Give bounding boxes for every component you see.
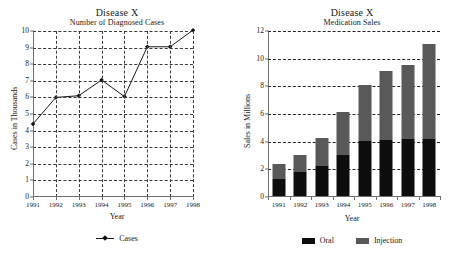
oral-swatch-icon xyxy=(302,238,315,244)
bar-segment-oral xyxy=(401,139,414,196)
bar-segment-oral xyxy=(423,139,436,196)
line-x-axis-label: Year xyxy=(0,212,234,221)
bar-segment-oral xyxy=(294,172,307,196)
bar-chart-titles: Disease X Medication Sales xyxy=(235,7,469,27)
y-tick-label: 0 xyxy=(25,193,29,201)
y-tick-label: 2 xyxy=(260,165,264,173)
y-tick-label: 10 xyxy=(257,55,265,63)
bar-1994 xyxy=(337,112,350,196)
y-tick-label: 9 xyxy=(25,44,29,52)
bar-segment-injection xyxy=(380,71,393,140)
bar-segment-injection xyxy=(337,112,350,154)
x-tick-label: 1996 xyxy=(140,201,154,209)
cases-polyline xyxy=(33,30,193,124)
y-tick-label: 1 xyxy=(25,176,29,184)
bar-chart-title: Disease X xyxy=(235,7,469,18)
bar-segment-oral xyxy=(272,179,285,196)
x-tick-label: 1991 xyxy=(272,201,286,209)
y-tick-label: 8 xyxy=(260,82,264,90)
bar-1995 xyxy=(358,85,371,196)
bar-1997 xyxy=(401,65,414,196)
y-tick-label: 2 xyxy=(25,160,29,168)
legend-item-injection: Injection xyxy=(356,236,402,245)
x-tick-label: 1998 xyxy=(422,201,436,209)
bar-segment-oral xyxy=(337,155,350,197)
line-chart-subtitle: Number of Diagnosed Cases xyxy=(0,18,234,27)
bar-segment-oral xyxy=(380,140,393,196)
legend-label-injection: Injection xyxy=(374,236,402,245)
bar-segment-injection xyxy=(315,138,328,166)
line-chart-title: Disease X xyxy=(0,7,234,18)
line-y-axis-label: Cases in Thousands xyxy=(10,87,19,150)
legend-label-cases: Cases xyxy=(119,234,138,243)
x-tick-label: 1995 xyxy=(117,201,131,209)
bar-y-axis-label: Sales in Millions xyxy=(243,94,252,148)
x-tick-label: 1994 xyxy=(95,201,109,209)
x-tick-label: 1991 xyxy=(26,201,40,209)
bar-plot-area: 0246810121991199219931994199519961997199… xyxy=(268,31,440,197)
y-tick-label: 0 xyxy=(260,193,264,201)
x-tick-label: 1996 xyxy=(379,201,393,209)
x-tick-label: 1993 xyxy=(315,201,329,209)
bar-x-axis-label: Year xyxy=(235,214,469,223)
bar-chart-subtitle: Medication Sales xyxy=(235,18,469,27)
bar-1996 xyxy=(380,71,393,196)
y-tick-label: 6 xyxy=(25,93,29,101)
bar-segment-injection xyxy=(294,155,307,172)
bar-segment-injection xyxy=(401,65,414,140)
bar-segment-injection xyxy=(423,44,436,139)
bar-1992 xyxy=(294,155,307,196)
y-tick-label: 12 xyxy=(257,27,265,35)
bar-chart-legend: Oral Injection xyxy=(235,236,469,245)
legend-item-oral: Oral xyxy=(302,236,334,245)
bar-1991 xyxy=(272,164,285,197)
y-tick-label: 8 xyxy=(25,60,29,68)
x-tick-label: 1997 xyxy=(401,201,415,209)
line-chart-panel: Disease X Number of Diagnosed Cases 0123… xyxy=(0,0,234,258)
y-tick-label: 4 xyxy=(25,127,29,135)
bar-1998 xyxy=(423,44,436,196)
x-tick-label: 1998 xyxy=(186,201,200,209)
bar-segment-oral xyxy=(315,166,328,196)
injection-swatch-icon xyxy=(356,238,369,244)
line-chart-legend: Cases xyxy=(0,234,234,243)
x-tick-label: 1993 xyxy=(72,201,86,209)
y-tick-label: 4 xyxy=(260,138,264,146)
bar-segment-injection xyxy=(272,164,285,179)
bar-1993 xyxy=(315,138,328,196)
figure-pair: Disease X Number of Diagnosed Cases 0123… xyxy=(0,0,469,258)
bar-segment-injection xyxy=(358,85,371,141)
legend-item-cases: Cases xyxy=(96,234,138,243)
legend-label-oral: Oral xyxy=(320,236,334,245)
x-tick-label: 1995 xyxy=(358,201,372,209)
line-chart-titles: Disease X Number of Diagnosed Cases xyxy=(0,7,234,27)
bar-chart-panel: Disease X Medication Sales 0246810121991… xyxy=(235,0,469,258)
y-tick-label: 10 xyxy=(22,27,30,35)
y-tick-label: 5 xyxy=(25,110,29,118)
x-tick-label: 1994 xyxy=(336,201,350,209)
y-tick-label: 6 xyxy=(260,110,264,118)
y-tick-label: 3 xyxy=(25,143,29,151)
x-tick-label: 1992 xyxy=(293,201,307,209)
x-tick-label: 1992 xyxy=(49,201,63,209)
line-marker-icon xyxy=(96,235,114,242)
bar-segment-oral xyxy=(358,141,371,196)
x-tick-label: 1997 xyxy=(163,201,177,209)
line-plot-area: 0123456789101991199219931994199519961997… xyxy=(33,31,193,197)
y-tick-label: 7 xyxy=(25,77,29,85)
